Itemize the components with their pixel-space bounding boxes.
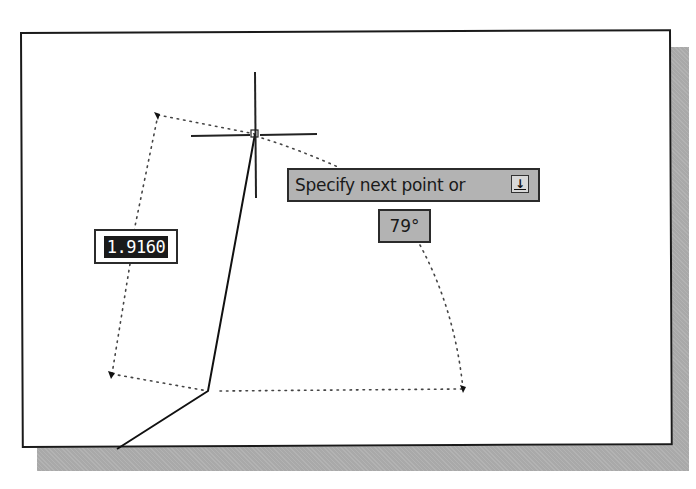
angle-input-box[interactable]: 79° <box>378 209 431 243</box>
line-segments <box>117 134 255 449</box>
length-input-box[interactable]: 1.9160 <box>94 229 178 264</box>
options-dropdown-button[interactable]: ↓ <box>511 175 529 193</box>
arrow-down-icon: ↓ <box>515 178 525 190</box>
length-input-value[interactable]: 1.9160 <box>104 236 168 258</box>
angle-value: 79° <box>389 216 419 236</box>
command-prompt-tooltip: Specify next point or ↓ <box>287 168 540 202</box>
prompt-text: Specify next point or <box>295 175 465 195</box>
